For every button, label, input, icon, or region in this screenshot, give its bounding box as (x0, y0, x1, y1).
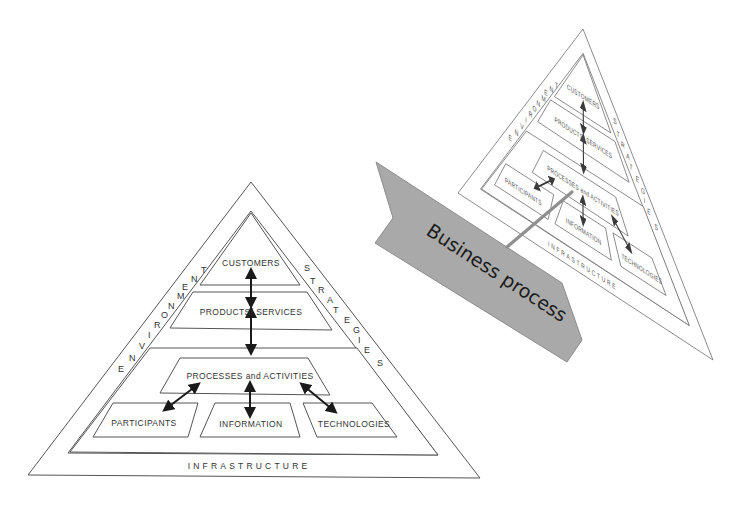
customers-label: CUSTOMERS (222, 258, 280, 268)
products-services-label: PRODUCTS/ SERVICES (200, 307, 302, 317)
edge-letter: T (333, 305, 339, 315)
edge-letter: I (525, 115, 527, 124)
edge-letter: M (177, 291, 185, 301)
technologies-label: TECHNOLOGIES (318, 419, 390, 429)
processes-activities-label: PROCESSES and ACTIVITIES (186, 371, 313, 381)
edge-letter: E (118, 364, 124, 374)
edge-letter: S (304, 263, 310, 273)
information-label: INFORMATION (219, 419, 282, 429)
diagram-canvas: CUSTOMERS PRODUCTS/ SERVICES PROCESSES a… (0, 0, 741, 507)
infrastructure-label: INFRASTRUCTURE (188, 461, 311, 471)
edge-letter: E (182, 282, 188, 292)
edge-letter: R (318, 285, 325, 295)
edge-letter: T (201, 265, 207, 275)
edge-letter: N (129, 353, 136, 363)
edge-letter: T (310, 276, 316, 286)
edge-letter: A (327, 295, 333, 305)
edge-letter: G (353, 325, 360, 335)
edge-letter: V (139, 341, 145, 351)
participants-label: PARTICIPANTS (111, 418, 176, 428)
edge-letter: O (161, 310, 168, 320)
edge-letter: E (344, 315, 350, 325)
edge-letter: N (191, 274, 198, 284)
edge-letter: I (644, 196, 646, 205)
edge-letter: E (364, 345, 370, 355)
edge-letter: S (377, 358, 383, 368)
edge-letter: N (168, 301, 175, 311)
edge-letter: R (154, 320, 161, 330)
edge-letter: I (358, 335, 361, 345)
edge-letter: I (148, 330, 151, 340)
